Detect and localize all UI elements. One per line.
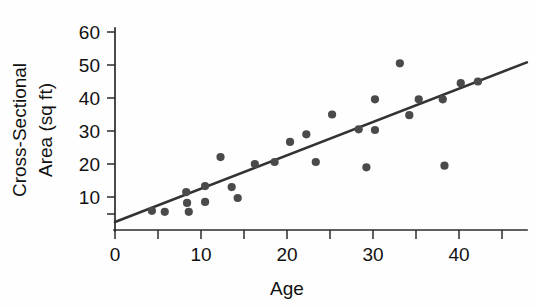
data-point [182,188,190,196]
y-tick-label-20: 20 [79,154,100,175]
scatter-plot-svg: 60 50 40 30 20 10 0 10 20 30 40 [0,0,536,307]
data-point [251,160,259,168]
data-point [405,111,413,119]
y-axis-tick-labels: 60 50 40 30 20 10 [79,22,100,208]
data-point [312,158,320,166]
data-point [396,59,404,67]
scatter-points-group [148,59,482,216]
x-axis-tick-labels: 0 10 20 30 40 [110,244,470,265]
chart-figure: 60 50 40 30 20 10 0 10 20 30 40 [0,0,536,307]
data-point [216,153,224,161]
y-axis-ticks [107,32,115,214]
x-axis-ticks [115,230,502,239]
data-point [148,207,156,215]
data-point [415,95,423,103]
y-tick-label-30: 30 [79,121,100,142]
y-axis-title-line2: Area (sq ft) [35,83,56,177]
data-point [270,158,278,166]
data-point [161,208,169,216]
regression-trendline [115,62,527,222]
y-tick-label-50: 50 [79,55,100,76]
x-tick-label-30: 30 [362,244,383,265]
data-point [474,77,482,85]
data-point [355,125,363,133]
data-point [185,208,193,216]
data-point [228,183,236,191]
x-tick-label-10: 10 [190,244,211,265]
data-point [440,162,448,170]
y-tick-label-60: 60 [79,22,100,43]
data-point [183,199,191,207]
x-tick-label-40: 40 [448,244,469,265]
data-point [362,163,370,171]
data-point [201,182,209,190]
data-point [457,79,465,87]
data-point [439,95,447,103]
data-point [328,110,336,118]
y-tick-label-10: 10 [79,187,100,208]
data-point [302,130,310,138]
data-point [234,194,242,202]
data-point [371,95,379,103]
data-point [371,126,379,134]
y-axis-title: Cross-Sectional Area (sq ft) [9,63,56,197]
x-tick-label-0: 0 [110,244,121,265]
x-axis-title: Age [270,278,304,299]
y-axis-title-line1: Cross-Sectional [9,63,30,197]
y-tick-label-40: 40 [79,88,100,109]
data-point [201,198,209,206]
data-point [286,138,294,146]
x-tick-label-20: 20 [276,244,297,265]
